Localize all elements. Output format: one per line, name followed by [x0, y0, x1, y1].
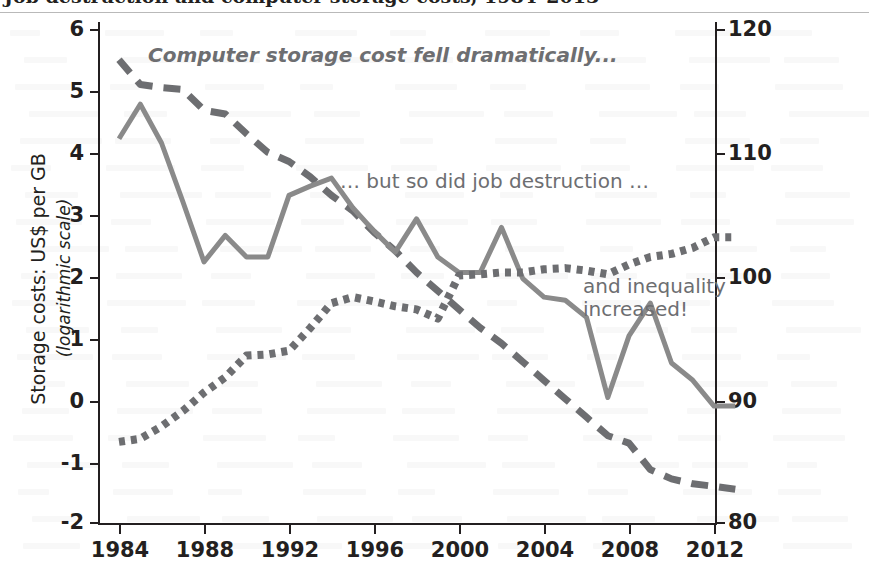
chart-plot-area [0, 0, 869, 575]
annotation-inequality: and inequality increased! [583, 275, 726, 321]
series-job-destruction-line [119, 104, 735, 406]
annotation-storage-cost: Computer storage cost fell dramatically.… [148, 44, 618, 67]
series-income-inequality-line [119, 237, 735, 442]
annotation-job-destruction: … but so did job destruction … [340, 170, 649, 193]
